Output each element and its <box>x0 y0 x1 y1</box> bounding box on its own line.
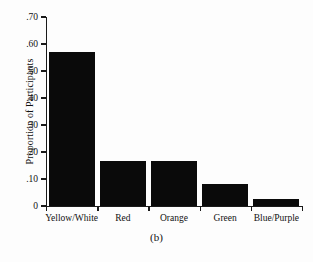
bar <box>253 199 299 206</box>
x-tick-mark <box>97 206 98 211</box>
bar <box>100 161 146 206</box>
bar <box>202 184 248 206</box>
bar-chart-figure: Proportion of Participants 0.10.20.30.40… <box>0 0 313 262</box>
x-tick-mark <box>251 206 252 211</box>
x-tick-mark <box>302 206 303 211</box>
bar <box>49 52 95 206</box>
x-axis-line <box>46 206 303 207</box>
x-tick-mark <box>200 206 201 211</box>
x-tick-label: Blue/Purple <box>241 213 313 223</box>
x-tick-mark-origin <box>46 206 47 211</box>
x-tick-mark <box>148 206 149 211</box>
bar <box>151 161 197 206</box>
bars-group <box>0 0 313 206</box>
figure-caption: (b) <box>0 231 313 243</box>
